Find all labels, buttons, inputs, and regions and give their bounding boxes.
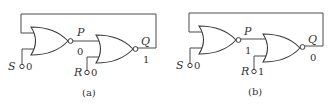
nor-gate-1-a [31, 27, 68, 55]
input-s-value-a: 0 [26, 61, 32, 72]
input-r-label-a: R [73, 66, 82, 79]
input-s-label-a: S [8, 60, 16, 73]
r-terminal-a [85, 70, 89, 74]
node-q-label-a: Q [141, 35, 150, 48]
node-q-label-b: Q [308, 33, 317, 46]
node-p-label-a: P [76, 26, 85, 39]
nor-bubble-1-b [236, 38, 241, 43]
panel-b: P 1 Q 0 S 0 R 1 (b) [176, 13, 323, 97]
input-r-value-b: 1 [258, 66, 264, 77]
s-terminal-b [188, 63, 192, 67]
input-s-value-b: 0 [194, 60, 200, 71]
caption-a: (a) [82, 87, 96, 98]
latch-figure: P 0 Q 1 S 0 R 0 (a) P 1 Q 0 S 0 R 1 (b) [0, 0, 335, 106]
nor-gate-1-b [199, 26, 236, 54]
s-terminal-a [20, 64, 24, 68]
nor-gate-2-b [263, 34, 300, 62]
panel-a: P 0 Q 1 S 0 R 0 (a) [8, 14, 156, 98]
nor-gate-2-a [96, 35, 133, 63]
r-terminal-b [252, 69, 256, 73]
node-q-value-b: 0 [310, 52, 316, 63]
input-r-label-b: R [240, 65, 249, 78]
input-r-value-a: 0 [91, 67, 97, 78]
node-q-value-a: 1 [143, 54, 149, 65]
nor-bubble-2-a [133, 47, 138, 52]
caption-b: (b) [248, 86, 262, 97]
nor-bubble-2-b [300, 45, 305, 50]
node-p-label-b: P [243, 25, 252, 38]
node-p-value-b: 1 [245, 45, 251, 56]
input-s-label-b: S [176, 59, 184, 72]
nor-bubble-1-a [68, 39, 73, 44]
node-p-value-a: 0 [77, 46, 83, 57]
